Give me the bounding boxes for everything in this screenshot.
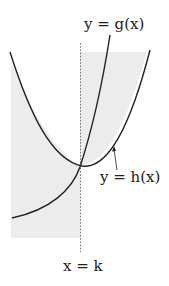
function-diagram: y = g(x) y = h(x) x = k	[0, 0, 169, 286]
label-g: y = g(x)	[83, 15, 144, 33]
label-k: x = k	[63, 257, 104, 275]
arrow-to-h	[114, 149, 117, 170]
label-h: y = h(x)	[99, 168, 160, 186]
left-shaded-region	[11, 62, 80, 238]
